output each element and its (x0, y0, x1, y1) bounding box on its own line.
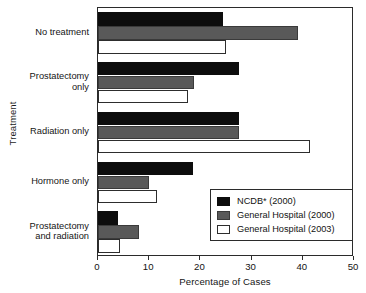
horizontal-bar-chart: Treatment No treatmentProstatectomy only… (0, 0, 366, 293)
bar (98, 176, 149, 190)
bar (98, 140, 310, 154)
category-label: Prostatectomy only (5, 71, 89, 92)
chart-legend: NCDB* (2000)General Hospital (2000)Gener… (210, 189, 353, 241)
legend-item: General Hospital (2003) (217, 222, 347, 236)
bar (98, 225, 139, 239)
legend-swatch-icon (217, 211, 230, 220)
legend-label: General Hospital (2000) (237, 210, 335, 220)
x-tick-label: 10 (133, 261, 163, 272)
bar (98, 90, 188, 104)
x-tick-mark (251, 256, 252, 260)
x-axis-title: Percentage of Cases (97, 276, 353, 287)
bar (98, 12, 223, 26)
x-tick-mark (97, 256, 98, 260)
bar (98, 40, 226, 54)
x-tick-mark (148, 256, 149, 260)
legend-swatch-icon (217, 225, 230, 234)
category-label: Prostatectomy and radiation (5, 221, 89, 242)
x-tick-label: 20 (184, 261, 214, 272)
legend-swatch-icon (217, 197, 230, 206)
bar-group (98, 12, 352, 54)
x-tick-label: 0 (82, 261, 112, 272)
x-tick-label: 40 (287, 261, 317, 272)
bar (98, 211, 118, 225)
bar (98, 190, 157, 204)
legend-item: NCDB* (2000) (217, 194, 347, 208)
legend-item: General Hospital (2000) (217, 208, 347, 222)
category-label: No treatment (5, 27, 89, 38)
category-label: Radiation only (5, 126, 89, 137)
x-tick-label: 30 (236, 261, 266, 272)
category-axis-labels: No treatmentProstatectomy onlyRadiation … (8, 7, 93, 256)
legend-label: NCDB* (2000) (237, 196, 296, 206)
x-tick-mark (199, 256, 200, 260)
bar (98, 26, 298, 40)
x-tick-mark (353, 256, 354, 260)
bar (98, 76, 194, 90)
bar-group (98, 112, 352, 154)
x-tick-mark (302, 256, 303, 260)
bar (98, 239, 120, 253)
legend-label: General Hospital (2003) (237, 224, 335, 234)
bar (98, 162, 193, 176)
bar (98, 62, 239, 76)
bar-group (98, 62, 352, 104)
bar (98, 126, 239, 140)
category-label: Hormone only (5, 176, 89, 187)
x-tick-label: 50 (338, 261, 366, 272)
bar (98, 112, 239, 126)
